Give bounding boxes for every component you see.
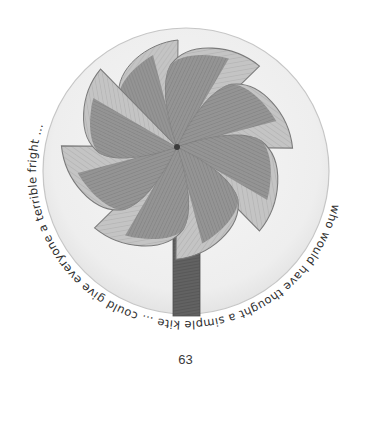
pinwheel-illustration: who would have thought a simple kite … c… xyxy=(0,0,371,340)
page-number: 63 xyxy=(0,352,371,367)
pinwheel-hub xyxy=(174,144,180,150)
